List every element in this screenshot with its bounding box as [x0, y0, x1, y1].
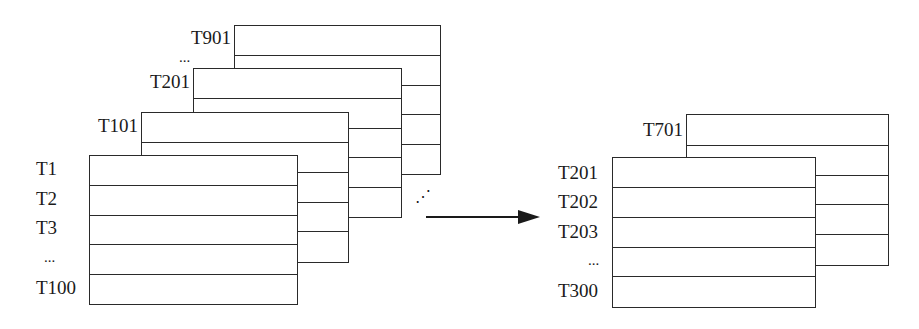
table-row	[687, 145, 888, 146]
table-t201-t300	[612, 157, 816, 308]
row-label: T300	[558, 281, 598, 301]
table-row	[613, 187, 815, 188]
row-label: T203	[558, 222, 598, 242]
row-label: T202	[558, 192, 598, 212]
table-row	[613, 276, 815, 277]
label-t701: T701	[634, 120, 683, 140]
row-label: T201	[558, 163, 598, 183]
table-row	[613, 217, 815, 218]
table-row	[613, 247, 815, 248]
row-label-ellipsis: ...	[588, 255, 599, 265]
